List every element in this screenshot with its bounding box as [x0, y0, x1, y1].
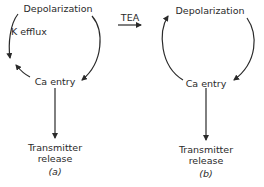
caption-b: (b) [199, 168, 212, 179]
node-transmitter-a: Transmitter [28, 142, 82, 153]
node-transmitter-b: Transmitter [179, 144, 233, 155]
node-depolarization-b: Depolarization [175, 5, 244, 16]
arc-ca-to-depolarization-b [162, 16, 183, 80]
caption-a: (a) [48, 166, 61, 177]
label-tea: TEA [121, 12, 139, 23]
arc-depolarization-to-ca-a [82, 16, 100, 80]
node-ca-entry-b: Ca entry [186, 78, 227, 89]
node-depolarization-a: Depolarization [23, 3, 92, 14]
node-release-a: release [38, 153, 73, 164]
node-ca-entry-a: Ca entry [35, 76, 76, 87]
node-release-b: release [189, 155, 224, 166]
label-k-efflux: K efflux [11, 26, 47, 37]
arc-ca-to-kefflux-a [16, 65, 30, 77]
arc-depolarization-to-ca-b [234, 18, 254, 80]
